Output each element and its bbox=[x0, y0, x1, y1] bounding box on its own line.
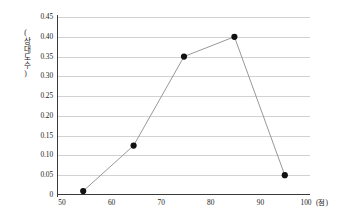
series-line bbox=[83, 37, 285, 191]
data-point-marker bbox=[80, 188, 86, 194]
data-point-marker bbox=[131, 142, 137, 148]
data-series-layer bbox=[0, 0, 337, 221]
data-point-marker bbox=[282, 172, 288, 178]
series-markers bbox=[80, 34, 288, 194]
chart-container: (상대도수) 0.45 0.40 0.35 0.30 0.25 0.20 0.1… bbox=[0, 0, 337, 221]
data-point-marker bbox=[231, 34, 237, 40]
data-point-marker bbox=[181, 53, 187, 59]
